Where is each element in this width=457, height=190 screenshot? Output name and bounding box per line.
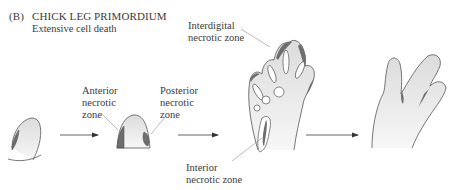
stage-separated-digits [372, 55, 446, 148]
stage-early-limb-bud [8, 118, 41, 161]
stage-foot-plate [232, 29, 314, 161]
stage-limb-bud [101, 113, 166, 148]
limb-development-diagram [0, 0, 457, 190]
